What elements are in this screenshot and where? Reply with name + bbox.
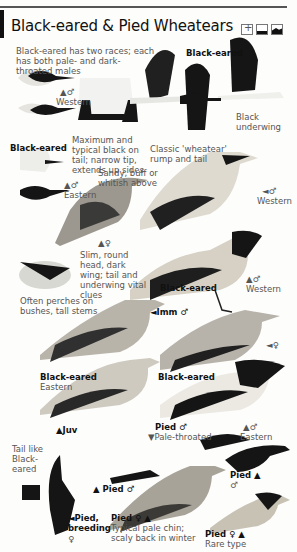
black-underwing-note: Black underwing	[236, 112, 286, 132]
black-eared-flight-label: Black-eared	[186, 48, 243, 58]
western-male-pale-sex: ◄♂	[262, 186, 276, 196]
western-male-sex: ▲♂	[60, 87, 74, 97]
pied-female-rare-label: Pied ♀ ▲	[205, 529, 245, 539]
intro-note: Black-eared has two races; each has both…	[16, 46, 156, 76]
perches-note: Often perches on bushes, tall stems	[20, 296, 100, 316]
female-right-label: ◄♀	[266, 340, 279, 350]
classic-rump-note: Classic 'wheatear' rump and tail	[150, 144, 230, 164]
western-male-pale-race: Western	[257, 196, 292, 206]
pied-breeding-label: ◄Pied, breeding	[68, 513, 108, 533]
black-eared-right-label: Black-eared	[158, 372, 215, 382]
pied-male-right-sex: ♂	[230, 480, 238, 490]
bird-western-male-dark-icon	[130, 231, 262, 312]
bird-pied-female-rare-icon	[210, 492, 290, 534]
pied-male-flight-label: ▲ Pied ♂	[93, 484, 134, 494]
western-male-dark-sex: ▲♂	[246, 274, 260, 284]
rare-type-label: Rare type	[205, 539, 246, 549]
eastern-male-sex-2: ▲♂	[243, 422, 257, 432]
eastern-race-label-3: Eastern	[240, 432, 272, 442]
pale-throated-label: ▼Pale-throated	[148, 432, 212, 442]
western-race-label: Western	[56, 97, 91, 107]
sandy-note: Sandy, buff or whitish above	[98, 168, 162, 188]
western-male-dark-race: Western	[246, 284, 281, 294]
pied-male-right-label: Pied ▲	[230, 470, 261, 480]
pied-breeding-sex: ♀	[68, 534, 74, 544]
black-eared-label: Black-eared	[10, 143, 67, 153]
juv-label: ▲Juv	[56, 425, 77, 435]
slim-note: Slim, round head, dark wing; tail and un…	[80, 250, 146, 300]
black-eared-mid-label: Black-eared	[160, 283, 217, 293]
eastern-race-label-2: Eastern	[40, 382, 72, 392]
head-eastern-male-icon	[20, 148, 70, 200]
bird-perched-bush-icon	[19, 261, 71, 289]
eastern-race-label: Eastern	[64, 190, 96, 200]
female-sex: ▲♀	[98, 238, 111, 248]
pied-female-note: Typical pale chin; scaly back in winter	[111, 523, 196, 543]
pied-male-pale-label: Pied ♂	[155, 422, 187, 432]
tail-like-note: Tail like Black-eared	[12, 444, 48, 474]
pied-female-label: Pied ♀ ▲	[111, 513, 151, 523]
black-eared-eastern-label: Black-eared	[40, 372, 97, 382]
eastern-male-sex: ▲♂	[64, 180, 78, 190]
field-guide-page: Black-eared & Pied Wheatears	[0, 0, 297, 552]
imm-male-label: ◄Imm ♂	[150, 307, 188, 317]
